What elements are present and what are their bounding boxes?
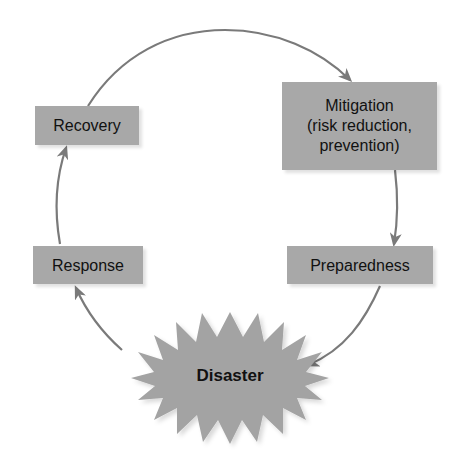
arrow-mitigation-to-preparedness — [394, 170, 397, 244]
recovery-label: Recovery — [53, 116, 121, 135]
response-label: Response — [52, 256, 124, 275]
preparedness-box: Preparedness — [287, 246, 433, 284]
mitigation-box: Mitigation (risk reduction, prevention) — [282, 82, 437, 170]
mitigation-label: Mitigation (risk reduction, prevention) — [307, 96, 412, 156]
disaster-label: Disaster — [160, 366, 300, 386]
disaster-cycle-diagram — [0, 0, 459, 460]
arrow-disaster-to-response — [76, 288, 122, 350]
response-box: Response — [33, 246, 143, 284]
arrow-response-to-recovery — [56, 148, 66, 244]
recovery-box: Recovery — [35, 106, 139, 145]
preparedness-label: Preparedness — [310, 256, 410, 275]
